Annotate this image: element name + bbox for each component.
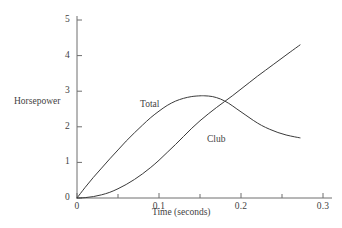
- y-tick-label-5: 5: [54, 14, 70, 24]
- series-label-total: Total: [140, 99, 159, 109]
- curve-total: [77, 96, 300, 198]
- x-tick-label-0: 0: [62, 201, 92, 211]
- y-tick-label-4: 4: [54, 50, 70, 60]
- curve-club: [77, 45, 300, 198]
- y-tick-label-2: 2: [54, 121, 70, 131]
- y-tick-label-1: 1: [54, 156, 70, 166]
- axes: [77, 16, 332, 198]
- x-tick-label-6: 0.3: [308, 201, 338, 211]
- y-axis-ticks: [77, 20, 82, 198]
- chart-canvas: [0, 0, 342, 228]
- x-axis-title: Time (seconds): [152, 207, 211, 217]
- x-tick-label-4: 0.2: [226, 201, 256, 211]
- y-tick-label-3: 3: [54, 85, 70, 95]
- series-label-club: Club: [207, 134, 225, 144]
- horsepower-vs-time-chart: 012345 00.10.20.3 Horsepower Time (secon…: [0, 0, 342, 228]
- x-axis-ticks: [77, 193, 323, 198]
- data-series: [77, 45, 300, 198]
- y-axis-title: Horsepower: [14, 96, 60, 106]
